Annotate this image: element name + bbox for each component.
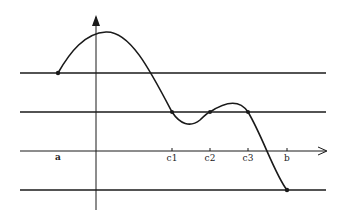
point-b [285,188,289,192]
point-c1 [170,110,174,114]
label-c3: c3 [243,153,254,163]
function-graph [0,0,343,218]
label-a: a [55,152,61,162]
label-c2: c2 [205,153,216,163]
point-c2 [208,110,212,114]
label-b: b [284,153,290,163]
label-c1: c1 [167,153,178,163]
marked-points [56,71,289,192]
point-c3 [246,110,250,114]
y-axis-arrow-icon [92,15,100,26]
point-a [56,71,60,75]
